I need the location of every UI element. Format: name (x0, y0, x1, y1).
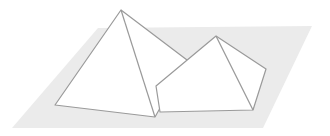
diagram-svg (0, 0, 330, 136)
pyramids-diagram (0, 0, 330, 136)
